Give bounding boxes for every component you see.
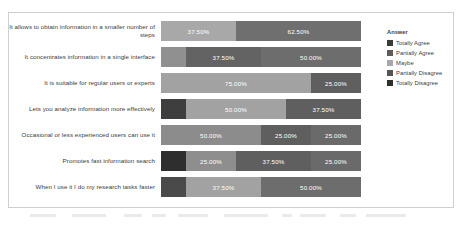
bar-segment[interactable]	[161, 177, 186, 197]
segment-value-label: 62.50%	[288, 28, 310, 35]
scan-artifact	[366, 214, 406, 217]
bar-segment[interactable]	[161, 151, 186, 171]
stacked-bar[interactable]: 75.00%25.00%	[161, 73, 361, 93]
legend-item[interactable]: Totally Disagree	[387, 78, 453, 87]
bar-row: It concentrates information in a single …	[9, 47, 377, 67]
scan-artifact	[30, 214, 56, 217]
bar-segment[interactable]: 37.50%	[186, 177, 261, 197]
segment-value-label: 50.00%	[225, 106, 247, 113]
bar-segment[interactable]: 50.00%	[261, 47, 361, 67]
category-label: Occasional or less experienced users can…	[9, 131, 161, 139]
segment-value-label: 37.50%	[213, 54, 235, 61]
stacked-bar[interactable]: 25.00%37.50%25.00%	[161, 151, 361, 171]
legend-item[interactable]: Partially Agree	[387, 48, 453, 57]
segment-value-label: 50.00%	[200, 132, 222, 139]
category-label: Lets you analyze information more effect…	[9, 105, 161, 113]
stacked-bar[interactable]: 37.50%62.50%	[161, 21, 361, 41]
category-label: Promotes fast information search	[9, 157, 161, 165]
scan-artifact	[300, 214, 326, 217]
bar-segment[interactable]: 25.00%	[186, 151, 236, 171]
legend-label: Totally Disagree	[396, 80, 438, 86]
legend-swatch-icon	[387, 70, 393, 76]
scan-artifact	[152, 214, 166, 217]
legend-swatch-icon	[387, 40, 393, 46]
bar-row: Lets you analyze information more effect…	[9, 99, 377, 119]
bar-segment[interactable]: 50.00%	[186, 99, 286, 119]
bar-row: It allows to obtain information in a sma…	[9, 21, 377, 41]
bar-segment[interactable]: 25.00%	[311, 73, 361, 93]
segment-value-label: 37.50%	[188, 28, 210, 35]
bar-segment[interactable]: 25.00%	[311, 125, 361, 145]
legend-item[interactable]: Maybe	[387, 58, 453, 67]
bar-segment[interactable]: 37.50%	[286, 99, 361, 119]
legend-item[interactable]: Partially Disagree	[387, 68, 453, 77]
category-label: It is suitable for regular users or expe…	[9, 79, 161, 87]
scan-artifact	[124, 214, 142, 217]
bar-segment[interactable]: 75.00%	[161, 73, 311, 93]
segment-value-label: 25.00%	[325, 158, 347, 165]
category-label: It allows to obtain information in a sma…	[9, 23, 161, 38]
legend-label: Maybe	[396, 60, 414, 66]
stacked-bar[interactable]: 50.00%25.00%25.00%	[161, 125, 361, 145]
bar-row: When I use it I do my research tasks fas…	[9, 177, 377, 197]
legend-swatch-icon	[387, 60, 393, 66]
bar-row: Occasional or less experienced users can…	[9, 125, 377, 145]
legend-label: Partially Agree	[396, 50, 434, 56]
segment-value-label: 37.50%	[313, 106, 335, 113]
segment-value-label: 75.00%	[225, 80, 247, 87]
bar-segment[interactable]: 62.50%	[236, 21, 361, 41]
category-label: It concentrates information in a single …	[9, 53, 161, 61]
stacked-bar[interactable]: 37.50%50.00%	[161, 177, 361, 197]
segment-value-label: 37.50%	[263, 158, 285, 165]
scan-artifact	[224, 214, 268, 217]
category-label: When I use it I do my research tasks fas…	[9, 183, 161, 191]
segment-value-label: 25.00%	[275, 132, 297, 139]
legend-swatch-icon	[387, 80, 393, 86]
plot-area: It allows to obtain information in a sma…	[9, 18, 377, 204]
segment-value-label: 25.00%	[325, 132, 347, 139]
bar-segment[interactable]: 25.00%	[311, 151, 361, 171]
chart-legend: Answer Totally AgreePartially AgreeMaybe…	[387, 29, 453, 88]
legend-label: Totally Agree	[396, 40, 430, 46]
bar-segment[interactable]	[161, 99, 186, 119]
segment-value-label: 37.50%	[213, 184, 235, 191]
segment-value-label: 50.00%	[300, 184, 322, 191]
bar-row: Promotes fast information search25.00%37…	[9, 151, 377, 171]
bar-segment[interactable]: 50.00%	[161, 125, 261, 145]
bar-segment[interactable]: 37.50%	[161, 21, 236, 41]
segment-value-label: 25.00%	[325, 80, 347, 87]
legend-title: Answer	[387, 29, 453, 35]
chart-card: It allows to obtain information in a sma…	[8, 12, 454, 208]
bar-segment[interactable]: 37.50%	[186, 47, 261, 67]
bar-segment[interactable]: 25.00%	[261, 125, 311, 145]
legend-items: Totally AgreePartially AgreeMaybePartial…	[387, 38, 453, 87]
segment-value-label: 50.00%	[300, 54, 322, 61]
legend-swatch-icon	[387, 50, 393, 56]
legend-label: Partially Disagree	[396, 70, 442, 76]
bar-row: It is suitable for regular users or expe…	[9, 73, 377, 93]
scan-artifact	[72, 214, 106, 217]
page-background: It allows to obtain information in a sma…	[0, 0, 464, 228]
segment-value-label: 25.00%	[200, 158, 222, 165]
bar-segment[interactable]	[161, 47, 186, 67]
legend-item[interactable]: Totally Agree	[387, 38, 453, 47]
bar-segment[interactable]: 37.50%	[236, 151, 311, 171]
stacked-bar[interactable]: 37.50%50.00%	[161, 47, 361, 67]
scan-artifact	[178, 214, 208, 217]
scan-artifact	[282, 214, 292, 217]
stacked-bar[interactable]: 50.00%37.50%	[161, 99, 361, 119]
scan-artifact	[340, 214, 356, 217]
bar-segment[interactable]: 50.00%	[261, 177, 361, 197]
